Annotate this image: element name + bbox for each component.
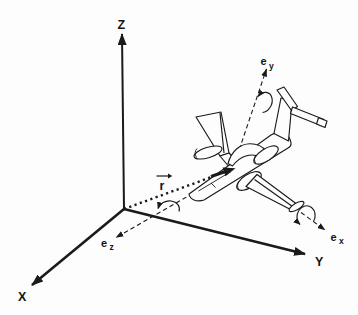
yaw-rotation-arrow-icon (158, 201, 179, 212)
y-axis (124, 209, 305, 254)
position-vector-label: r (157, 173, 173, 192)
y-axis-label: Y (315, 255, 324, 269)
ex-label-subscript: x (339, 236, 344, 246)
aircraft-stabilizer-tip-cap (317, 118, 328, 128)
flight-dynamics-figure: Z X Y e y e z e x r (0, 0, 358, 315)
ez-label-subscript: z (110, 242, 114, 252)
x-axis-label: X (18, 290, 27, 304)
z-axis-label: Z (118, 18, 126, 32)
roll-rotation-arrow-icon (297, 206, 315, 225)
z-axis (122, 34, 124, 209)
ez-label-base: e (101, 237, 107, 249)
ey-label-base: e (261, 55, 267, 67)
aircraft-left-tip-tank (193, 143, 224, 161)
axis-labels: Z X Y e y e z e x r (18, 18, 344, 304)
body-axis-ex-line (301, 213, 325, 231)
axes-and-aircraft-diagram: Z X Y e y e z e x r (0, 0, 358, 315)
position-vector-symbol: r (160, 179, 165, 193)
ex-label-base: e (331, 231, 337, 243)
aircraft-drawing (189, 87, 327, 214)
pitch-rotation-arrow-icon (258, 92, 272, 112)
ey-label-subscript: y (269, 61, 274, 71)
